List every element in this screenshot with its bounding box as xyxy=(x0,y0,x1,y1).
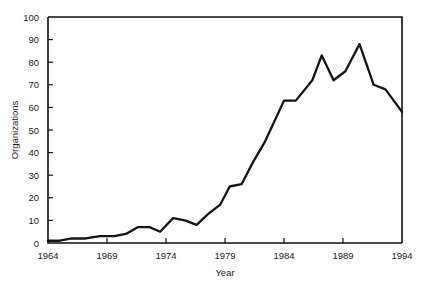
x-axis-label: Year xyxy=(215,267,234,278)
x-axis-tick-label: 1974 xyxy=(155,250,176,261)
y-axis-tick-label: 40 xyxy=(28,147,39,158)
y-axis-tick-label: 80 xyxy=(28,57,39,68)
x-axis-tick-label: 1989 xyxy=(332,250,353,261)
x-axis-tick-label: 1984 xyxy=(273,250,294,261)
x-axis-tick-label: 1964 xyxy=(37,250,58,261)
axis-spines-top-right xyxy=(48,17,402,243)
y-axis-tick-label: 0 xyxy=(34,238,39,249)
organizations-line-chart: 0102030405060708090100196419691974197919… xyxy=(0,0,427,291)
y-axis-tick-label: 30 xyxy=(28,170,39,181)
y-axis-tick-label: 20 xyxy=(28,192,39,203)
axis-spines-left-bottom xyxy=(48,17,402,243)
y-axis-tick-label: 90 xyxy=(28,34,39,45)
x-axis-tick-label: 1994 xyxy=(391,250,412,261)
y-axis-tick-label: 50 xyxy=(28,125,39,136)
y-axis-tick-label: 60 xyxy=(28,102,39,113)
x-axis-tick-label: 1969 xyxy=(96,250,117,261)
x-axis-tick-label: 1979 xyxy=(214,250,235,261)
y-axis-label: Organizations xyxy=(9,100,20,159)
y-axis-tick-label: 10 xyxy=(28,215,39,226)
y-axis-tick-label: 70 xyxy=(28,79,39,90)
data-series-line xyxy=(48,44,402,241)
y-axis-tick-label: 100 xyxy=(23,12,39,23)
